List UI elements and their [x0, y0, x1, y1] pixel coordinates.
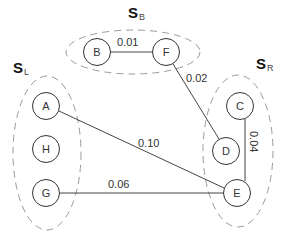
- svg-text:B: B: [93, 46, 100, 58]
- svg-text:C: C: [236, 100, 244, 112]
- edge-label-c-e: 0.04: [248, 131, 260, 152]
- graph-diagram: SB SL SR 0.01 0.02 0.04 0.10 0.06 A B C …: [0, 0, 283, 238]
- group-sr-label: SR: [256, 55, 274, 73]
- node-a: A: [33, 93, 60, 120]
- edge-a-e: [59, 111, 224, 188]
- svg-text:H: H: [42, 143, 50, 155]
- edge-label-f-d: 0.02: [186, 72, 207, 84]
- node-d: D: [213, 138, 240, 165]
- svg-text:A: A: [42, 100, 50, 112]
- group-sl-label: SL: [13, 59, 29, 77]
- node-g: G: [33, 180, 60, 207]
- edge-label-a-e: 0.10: [138, 137, 159, 149]
- group-sb-label: SB: [128, 4, 145, 22]
- node-e: E: [224, 180, 251, 207]
- svg-text:E: E: [233, 187, 240, 199]
- node-c: C: [227, 93, 254, 120]
- node-f: F: [153, 39, 180, 66]
- svg-text:F: F: [163, 46, 170, 58]
- svg-text:G: G: [42, 187, 51, 199]
- node-b: B: [84, 39, 111, 66]
- edge-label-b-f: 0.01: [117, 36, 138, 48]
- edge-label-g-e: 0.06: [108, 178, 129, 190]
- node-h: H: [33, 136, 60, 163]
- svg-text:D: D: [222, 145, 230, 157]
